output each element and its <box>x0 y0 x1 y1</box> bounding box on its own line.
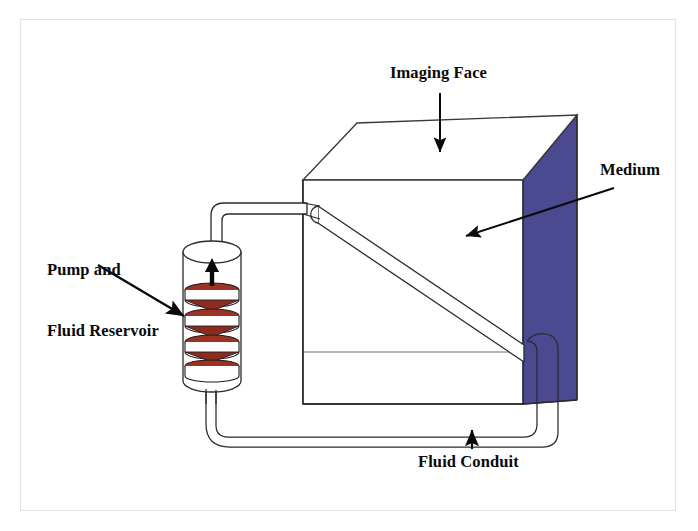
pump-cylinder <box>183 241 241 404</box>
label-imaging-face: Imaging Face <box>390 63 487 83</box>
figure-canvas: Imaging Face Medium Pump and Fluid Reser… <box>0 0 698 531</box>
label-medium: Medium <box>600 160 660 180</box>
label-pump-and-fluid-reservoir: Pump and Fluid Reservoir <box>47 220 159 381</box>
label-fluid-conduit: Fluid Conduit <box>418 452 519 472</box>
label-pump-line2: Fluid Reservoir <box>47 321 159 341</box>
medium-cube <box>303 115 577 404</box>
cube-front-imaging-face <box>303 180 523 404</box>
label-pump-line1: Pump and <box>47 260 159 280</box>
